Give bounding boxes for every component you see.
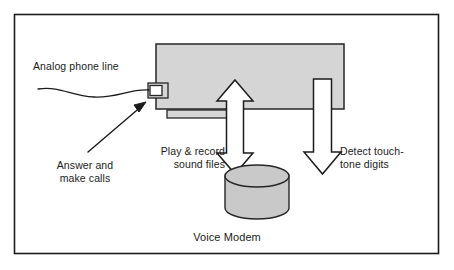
label-play-and-record-sound-files: Play & record sound files — [129, 145, 225, 170]
label-answer-and-make-calls: Answer and make calls — [33, 159, 137, 184]
diagram-caption: Voice Modem — [163, 231, 291, 244]
label-detect-touch-tone-digits: Detect touch- tone digits — [340, 145, 446, 170]
sound-file-cylinder-top — [225, 165, 289, 187]
phone-jack-port — [150, 86, 162, 96]
diagram-canvas — [0, 0, 454, 270]
edge-connector-strip — [167, 110, 230, 118]
label-analog-phone-line: Analog phone line — [33, 60, 119, 73]
voice-modem-diagram: Analog phone line Answer and make calls … — [0, 0, 454, 270]
